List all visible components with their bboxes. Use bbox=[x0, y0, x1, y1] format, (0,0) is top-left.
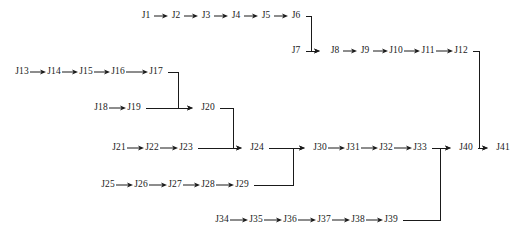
node-label-j36[interactable]: J36 bbox=[283, 214, 297, 224]
edge-j5-to-j6 bbox=[274, 13, 288, 18]
connector-j20-to-j24-row bbox=[220, 108, 242, 151]
node-label-j15[interactable]: J15 bbox=[79, 66, 93, 76]
edge-j3-to-j4 bbox=[214, 13, 228, 18]
node-label-j16[interactable]: J16 bbox=[111, 66, 125, 76]
edges-layer bbox=[30, 13, 488, 222]
node-label-j10[interactable]: J10 bbox=[389, 45, 403, 55]
node-label-j3[interactable]: J3 bbox=[202, 10, 211, 20]
node-label-j41[interactable]: J41 bbox=[496, 142, 510, 152]
node-label-j26[interactable]: J26 bbox=[134, 179, 148, 189]
edge-j8-to-j9 bbox=[343, 48, 357, 53]
node-label-j27[interactable]: J27 bbox=[168, 179, 182, 189]
connector-line bbox=[254, 148, 301, 185]
edge-j16-to-j17 bbox=[126, 69, 148, 74]
connector-line bbox=[306, 16, 316, 51]
node-label-j39[interactable]: J39 bbox=[384, 214, 398, 224]
connector-line bbox=[168, 72, 189, 108]
connector-j19-to-j20 bbox=[146, 105, 193, 110]
edge-j11-to-j12 bbox=[436, 48, 453, 53]
connector-j17-to-j20-row bbox=[168, 72, 193, 111]
edge-j14-to-j15 bbox=[62, 69, 78, 74]
node-label-j6[interactable]: J6 bbox=[292, 10, 301, 20]
connector-line bbox=[473, 51, 484, 148]
node-label-j13[interactable]: J13 bbox=[15, 66, 29, 76]
node-label-j4[interactable]: J4 bbox=[232, 10, 241, 20]
node-label-j9[interactable]: J9 bbox=[361, 45, 370, 55]
node-label-j22[interactable]: J22 bbox=[145, 142, 159, 152]
node-label-j23[interactable]: J23 bbox=[179, 142, 193, 152]
edge-j31-to-j32 bbox=[361, 145, 378, 150]
edge-j30-to-j31 bbox=[328, 145, 345, 150]
node-label-j5[interactable]: J5 bbox=[262, 10, 271, 20]
edge-j38-to-j39 bbox=[366, 217, 383, 222]
node-label-j12[interactable]: J12 bbox=[454, 45, 468, 55]
node-label-j11[interactable]: J11 bbox=[421, 45, 434, 55]
node-label-j20[interactable]: J20 bbox=[201, 102, 215, 112]
node-label-j7[interactable]: J7 bbox=[292, 45, 301, 55]
node-label-j24[interactable]: J24 bbox=[250, 142, 264, 152]
node-label-j17[interactable]: J17 bbox=[149, 66, 163, 76]
connector-j7-to-j8 bbox=[306, 48, 320, 53]
edge-j26-to-j27 bbox=[149, 182, 167, 187]
edge-j1-to-j2 bbox=[154, 13, 168, 18]
edge-j35-to-j36 bbox=[264, 217, 282, 222]
edge-j10-to-j11 bbox=[404, 48, 420, 53]
node-label-j1[interactable]: J1 bbox=[142, 10, 151, 20]
node-label-j29[interactable]: J29 bbox=[235, 179, 249, 189]
edge-j34-to-j35 bbox=[230, 217, 248, 222]
edge-j27-to-j28 bbox=[183, 182, 200, 187]
edge-j4-to-j5 bbox=[244, 13, 258, 18]
node-label-j8[interactable]: J8 bbox=[331, 45, 340, 55]
edge-j21-to-j22 bbox=[127, 145, 144, 150]
node-label-j31[interactable]: J31 bbox=[346, 142, 360, 152]
node-label-j14[interactable]: J14 bbox=[47, 66, 61, 76]
edge-j22-to-j23 bbox=[160, 145, 178, 150]
edge-j37-to-j38 bbox=[332, 217, 350, 222]
connector-j39-to-j40-row bbox=[403, 145, 451, 220]
edge-j32-to-j33 bbox=[394, 145, 412, 150]
edge-j9-to-j10 bbox=[373, 48, 388, 53]
node-label-j34[interactable]: J34 bbox=[215, 214, 229, 224]
connector-line bbox=[220, 108, 238, 148]
node-label-j28[interactable]: J28 bbox=[201, 179, 215, 189]
nodes-layer: J1J2J3J4J5J6J7J8J9J10J11J12J13J14J15J16J… bbox=[15, 10, 510, 224]
node-label-j38[interactable]: J38 bbox=[351, 214, 365, 224]
edge-j2-to-j3 bbox=[184, 13, 198, 18]
edge-j15-to-j16 bbox=[94, 69, 110, 74]
node-label-j18[interactable]: J18 bbox=[94, 102, 108, 112]
node-label-j35[interactable]: J35 bbox=[249, 214, 263, 224]
node-label-j33[interactable]: J33 bbox=[413, 142, 427, 152]
edge-j28-to-j29 bbox=[216, 182, 234, 187]
edge-j13-to-j14 bbox=[30, 69, 46, 74]
edge-j36-to-j37 bbox=[298, 217, 316, 222]
node-label-j25[interactable]: J25 bbox=[101, 179, 115, 189]
connector-j6-to-j7-row bbox=[306, 16, 320, 54]
node-label-j32[interactable]: J32 bbox=[379, 142, 393, 152]
connector-j23-to-j24 bbox=[198, 145, 242, 150]
node-label-j37[interactable]: J37 bbox=[317, 214, 331, 224]
edge-j18-to-j19 bbox=[109, 105, 126, 110]
node-label-j19[interactable]: J19 bbox=[127, 102, 141, 112]
connector-j12-to-j41-row bbox=[473, 51, 488, 151]
diagram-canvas: J1J2J3J4J5J6J7J8J9J10J11J12J13J14J15J16J… bbox=[0, 0, 517, 238]
node-label-j21[interactable]: J21 bbox=[112, 142, 126, 152]
job-dependency-diagram: J1J2J3J4J5J6J7J8J9J10J11J12J13J14J15J16J… bbox=[0, 0, 517, 238]
edge-j25-to-j26 bbox=[116, 182, 133, 187]
connector-line bbox=[403, 148, 447, 220]
node-label-j2[interactable]: J2 bbox=[172, 10, 181, 20]
node-label-j30[interactable]: J30 bbox=[313, 142, 327, 152]
node-label-j40[interactable]: J40 bbox=[459, 142, 473, 152]
